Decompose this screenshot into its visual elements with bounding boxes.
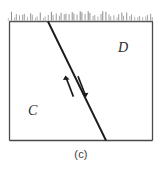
panel-caption: (c): [0, 148, 162, 160]
ground-surface-hatching: [8, 11, 152, 20]
block-label-d: D: [118, 41, 128, 55]
fault-diagram-figure: C D (c): [0, 0, 162, 170]
cross-section-body: [10, 22, 153, 141]
block-label-c: C: [28, 104, 37, 118]
fault-diagram-canvas: [0, 0, 162, 170]
